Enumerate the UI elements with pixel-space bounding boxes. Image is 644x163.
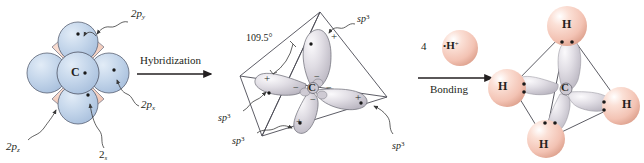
carbon-label-panel1: C <box>71 66 80 78</box>
figure-canvas: 2py 2px 2pz 2s C Hybridization 109.5° sp… <box>0 0 644 163</box>
label-2px: 2px <box>141 99 155 112</box>
hydrogen-label-bottom: H <box>539 138 548 150</box>
sp3-label-bottom-left: sp3 <box>232 136 244 146</box>
carbon-label-panel3: C <box>561 82 569 93</box>
lobe-sign-minus-left: − <box>293 83 299 93</box>
lobe-sign-minus-right: − <box>326 83 332 93</box>
lobe-sign-minus-down: − <box>310 95 316 105</box>
lobe-sign-plus-right: + <box>355 92 361 103</box>
sp3-label-top-right: sp3 <box>357 14 369 24</box>
lobe-sign-plus-left: + <box>264 73 270 84</box>
lobe-sign-plus-down: + <box>296 116 302 127</box>
bonding-label: Bonding <box>430 84 468 95</box>
hybridization-label: Hybridization <box>140 55 201 66</box>
sp3-label-left: sp3 <box>218 113 230 123</box>
lobe-sign-minus-up: − <box>314 72 320 82</box>
lobe-sign-plus-up: + <box>331 31 337 42</box>
hydrogen-label-left: H <box>498 80 507 92</box>
proton-species-label: •H+ <box>443 40 459 51</box>
bond-angle-label: 109.5° <box>246 33 273 43</box>
panel-atomic-orbitals <box>27 22 139 148</box>
label-2s: 2s <box>99 149 107 162</box>
carbon-label-panel2: C <box>308 82 316 93</box>
label-2py: 2py <box>131 8 145 21</box>
hydrogen-label-top: H <box>562 18 571 30</box>
proton-count-label: 4 <box>421 41 427 52</box>
sp3-label-bottom-right: sp3 <box>392 141 404 151</box>
hydrogen-sphere-right <box>602 87 640 125</box>
hydrogen-label-right: H <box>622 98 631 110</box>
bonding-arrow <box>418 30 492 78</box>
label-2pz: 2pz <box>6 141 20 154</box>
bond-angle-arc <box>273 44 293 74</box>
